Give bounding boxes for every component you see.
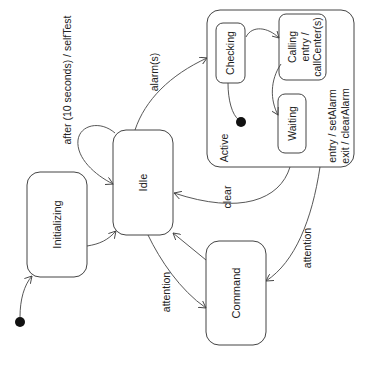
substate-calling-label: Calling <box>286 31 298 63</box>
label-after-10-seconds: after (10 seconds) / selfTest <box>61 15 73 144</box>
transition-command-to-idle <box>173 233 206 260</box>
state-command-label: Command <box>230 268 242 319</box>
state-initializing[interactable]: Initializing <box>27 172 87 277</box>
transition-idle-to-command <box>148 235 206 308</box>
substate-waiting-label: Waiting <box>286 106 298 141</box>
state-idle-label: Idle <box>137 174 149 192</box>
transition-initial-to-initializing <box>20 276 32 317</box>
final-dot <box>236 117 246 127</box>
state-active-label: Active <box>218 134 230 163</box>
substate-waiting[interactable]: Waiting <box>278 94 306 153</box>
state-idle[interactable]: Idle <box>113 130 173 235</box>
substate-checking-label: Checking <box>224 31 236 75</box>
state-active-entry: entry / setAlarm <box>326 89 338 163</box>
state-active[interactable]: Active entry / setAlarm exit / clearAlar… <box>207 10 354 167</box>
label-clear: clear <box>221 185 233 208</box>
state-initializing-label: Initializing <box>51 200 63 248</box>
label-attention-active: attention <box>301 228 313 268</box>
initial-state-dot <box>15 317 25 327</box>
transition-idle-self-loop <box>78 126 115 184</box>
label-attention-idle: attention <box>160 272 172 312</box>
substate-calling-action: callCenter(s) <box>311 17 323 77</box>
transition-idle-to-active <box>135 58 207 130</box>
transition-initializing-to-idle <box>87 231 116 246</box>
state-command[interactable]: Command <box>206 241 266 345</box>
substate-calling-entry: entry / <box>299 32 311 61</box>
substate-checking[interactable]: Checking <box>216 23 245 83</box>
substate-calling[interactable]: Calling entry / callCenter(s) <box>279 14 326 80</box>
state-active-exit: exit / clearAlarm <box>339 88 351 164</box>
state-diagram: Initializing Idle after (10 seconds) / s… <box>0 0 366 367</box>
label-alarm: alarm(s) <box>148 53 160 92</box>
